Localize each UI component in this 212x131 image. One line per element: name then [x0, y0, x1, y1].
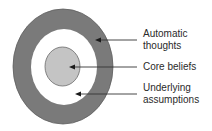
label-automatic-thoughts-line2: thoughts [143, 40, 187, 52]
label-underlying-assumptions-line2: assumptions [143, 94, 199, 106]
label-core-beliefs: Core beliefs [143, 61, 196, 73]
label-underlying-assumptions: Underlying assumptions [143, 82, 199, 106]
label-automatic-thoughts-line1: Automatic [143, 28, 187, 40]
label-underlying-assumptions-line1: Underlying [143, 82, 199, 94]
label-automatic-thoughts: Automatic thoughts [143, 28, 187, 52]
cognitive-model-diagram: Automatic thoughts Core beliefs Underlyi… [0, 0, 212, 131]
label-core-beliefs-line1: Core beliefs [143, 61, 196, 73]
